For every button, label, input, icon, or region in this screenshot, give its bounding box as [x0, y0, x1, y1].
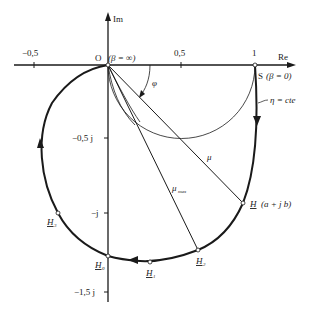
imag-axis-label: Im — [113, 14, 123, 24]
point-H3: H 3 — [46, 211, 60, 228]
mu-max-label: μ — [171, 183, 177, 193]
phi-arrow-icon — [139, 90, 145, 98]
point-S: S (β = 0) — [253, 63, 292, 81]
H-annotation: (a + j b) — [261, 199, 291, 209]
phi-label: φ — [152, 78, 157, 88]
svg-text:0: 0 — [102, 266, 105, 271]
mu-max-subscript: max — [178, 189, 187, 194]
svg-text:O: O — [95, 53, 102, 63]
origin-annotation: (β = ∞) — [108, 53, 135, 63]
locus-curve — [42, 65, 257, 261]
arrow-down-icon — [253, 116, 261, 126]
svg-text:H: H — [195, 256, 203, 266]
svg-text:S: S — [258, 71, 263, 81]
tick-label-neg-j: −j — [91, 208, 99, 218]
tick-label-0.5: 0,5 — [174, 48, 186, 58]
mu-label: μ — [206, 152, 212, 162]
imag-axis-arrow-icon — [105, 12, 111, 21]
tick-label-neg-1.5j: −1,5 j — [74, 287, 95, 297]
small-semicircle — [108, 65, 255, 139]
point-H1: H 1 — [145, 260, 156, 279]
arrow-left-icon — [128, 256, 138, 264]
eta-label: η = cte — [270, 95, 296, 105]
tick-label-1: 1 — [252, 48, 257, 58]
S-annotation: (β = 0) — [266, 71, 292, 81]
complex-plane-diagram: Re −0,5 0,5 1 Im −0,5 j −j −1,5 j φ η = … — [0, 0, 313, 315]
point-H: H (a + j b) — [241, 199, 291, 209]
svg-text:3: 3 — [54, 223, 57, 228]
arrow-up-icon — [37, 138, 44, 148]
mu-max-line — [108, 65, 198, 250]
point-H2: H 2 — [195, 248, 206, 267]
tick-label-neg-0.5: −0,5 — [22, 48, 39, 58]
svg-text:H: H — [145, 268, 153, 278]
eta-leader — [258, 100, 268, 103]
svg-text:H: H — [249, 199, 257, 209]
svg-text:H: H — [94, 260, 102, 270]
tick-label-neg-0.5j: −0,5 j — [72, 133, 93, 143]
svg-text:H: H — [46, 217, 54, 227]
svg-text:2: 2 — [203, 262, 206, 267]
real-axis-label: Re — [278, 52, 288, 62]
real-axis-arrow-icon — [287, 62, 296, 68]
svg-text:1: 1 — [153, 274, 156, 279]
